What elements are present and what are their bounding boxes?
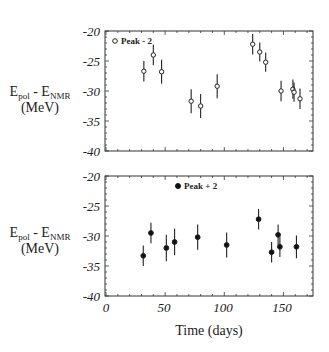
data-point — [189, 99, 193, 103]
data-point — [141, 253, 146, 258]
bottom-data-points — [141, 209, 299, 266]
bottom-ytick-label: -40 — [83, 289, 101, 304]
bottom-ytick-label: -30 — [83, 229, 101, 244]
data-point — [172, 240, 177, 245]
top-legend: Peak - 2 — [113, 36, 153, 46]
bottom-xtick-labels: 0 50 100 150 — [103, 300, 293, 315]
data-point — [250, 42, 254, 46]
xtick-label: 50 — [158, 300, 172, 315]
bottom-legend: Peak + 2 — [176, 181, 218, 191]
bottom-ticks — [105, 176, 313, 296]
xtick-label: 0 — [103, 300, 110, 315]
data-point — [277, 244, 282, 249]
data-point — [164, 246, 169, 251]
top-data-points — [142, 34, 303, 118]
top-legend-label: Peak - 2 — [121, 36, 152, 46]
top-ytick-labels: -20 -25 -30 -35 -40 — [83, 24, 101, 159]
data-point — [279, 89, 283, 93]
legend-open-circle-marker — [113, 39, 118, 44]
bottom-legend-label: Peak + 2 — [184, 181, 218, 191]
bottom-ylabel-units: (MeV) — [21, 241, 59, 257]
data-point — [256, 217, 261, 222]
data-point — [142, 69, 146, 73]
data-point — [149, 231, 154, 236]
top-ytick-label: -40 — [83, 144, 101, 159]
data-point — [269, 250, 274, 255]
legend-filled-circle-marker — [176, 184, 181, 189]
data-point — [195, 235, 200, 240]
data-point — [294, 244, 299, 249]
top-ylabel-units: (MeV) — [21, 100, 59, 116]
xtick-label: 100 — [213, 300, 233, 315]
top-ytick-label: -25 — [83, 54, 101, 69]
data-point — [224, 243, 229, 248]
top-ytick-label: -20 — [83, 24, 101, 39]
bottom-ytick-label: -20 — [83, 169, 101, 184]
data-point — [198, 104, 202, 108]
top-ylabel: Epol - ENMR — [10, 84, 71, 101]
data-point — [151, 53, 155, 57]
data-point — [258, 50, 262, 54]
xtick-label: 150 — [272, 300, 292, 315]
top-panel: -20 -25 -30 -35 -40 Epol - ENMR (MeV) Pe… — [10, 24, 313, 159]
top-ytick-label: -30 — [83, 84, 101, 99]
data-point — [215, 84, 219, 88]
data-point — [263, 60, 267, 64]
bottom-ytick-label: -35 — [83, 259, 101, 274]
data-point — [298, 97, 302, 101]
x-axis-title: Time (days) — [175, 323, 243, 339]
data-point — [159, 70, 163, 74]
bottom-ylabel: Epol - ENMR — [10, 225, 71, 242]
bottom-ytick-labels: -20 -25 -30 -35 -40 — [83, 169, 101, 304]
data-point — [292, 90, 296, 94]
chart: -20 -25 -30 -35 -40 Epol - ENMR (MeV) Pe… — [0, 0, 329, 352]
top-ytick-label: -35 — [83, 114, 101, 129]
bottom-panel: -20 -25 -30 -35 -40 0 50 100 150 Time (d… — [10, 169, 313, 339]
data-point — [276, 232, 281, 237]
bottom-ytick-label: -25 — [83, 199, 101, 214]
bottom-plot-frame — [105, 176, 313, 296]
